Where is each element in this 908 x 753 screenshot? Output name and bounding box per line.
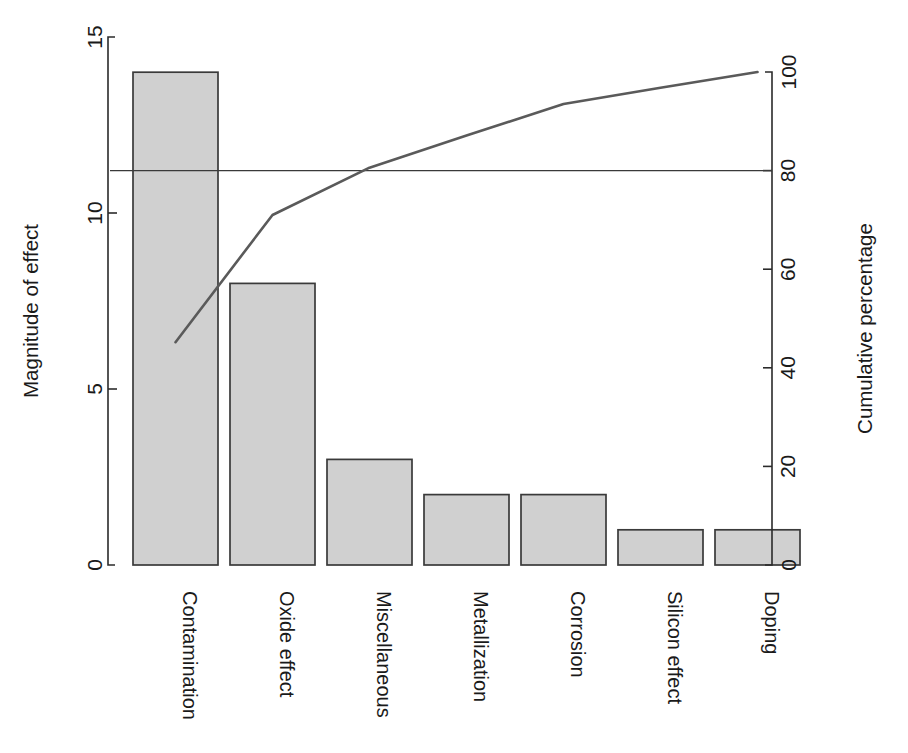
right-axis-title-text: Cumulative percentage [853, 223, 876, 434]
bar [521, 495, 606, 565]
left-axis-tick-label: 10 [83, 201, 106, 224]
right-axis-tick-label: 40 [777, 356, 800, 379]
right-axis-tick-label: 100 [777, 54, 800, 89]
bar [133, 72, 218, 565]
left-axis-title-text: Magnitude of effect [19, 224, 42, 398]
category-label: Doping [761, 591, 783, 654]
left-axis-title: Magnitude of effect [19, 224, 42, 398]
bar [424, 495, 509, 565]
bar [618, 530, 703, 565]
right-axis-tick-label: 60 [777, 258, 800, 281]
category-label: Miscellaneous [373, 591, 395, 718]
category-label: Metallization [470, 591, 492, 702]
right-axis-tick-label: 80 [777, 159, 800, 182]
category-label: Oxide effect [276, 591, 298, 698]
category-label: Contamination [179, 591, 201, 720]
pareto-chart: 051015 020406080100 Magnitude of effect … [0, 0, 908, 753]
category-label: Corrosion [567, 591, 589, 678]
pareto-chart-canvas: 051015 020406080100 Magnitude of effect … [0, 0, 908, 753]
category-label: Silicon effect [664, 591, 686, 704]
right-axis-tick-label: 0 [777, 559, 800, 571]
right-axis-title: Cumulative percentage [853, 223, 876, 434]
right-axis-tick-label: 20 [777, 455, 800, 478]
left-axis-tick-label: 5 [83, 383, 106, 395]
left-axis-tick-label: 15 [83, 25, 106, 48]
bar [327, 459, 412, 565]
bar [230, 283, 315, 565]
left-axis-tick-label: 0 [83, 559, 106, 571]
